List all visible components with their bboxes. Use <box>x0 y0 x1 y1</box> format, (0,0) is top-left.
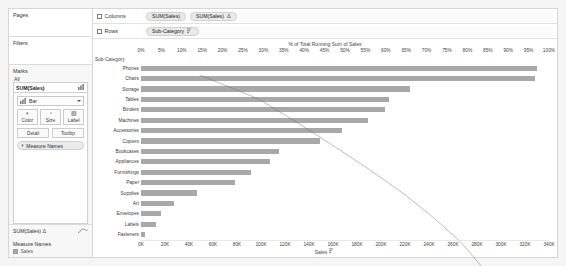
row-header-item[interactable]: Bookcases <box>93 146 139 156</box>
row-headers: Sub-Category PhonesChairsStorageTablesBi… <box>93 56 141 240</box>
row-header-item[interactable]: Phones <box>93 63 139 73</box>
mark-type-dropdown[interactable]: Bar <box>17 96 84 106</box>
delta-icon: Δ <box>227 13 231 19</box>
tooltip-button[interactable]: Tooltip <box>52 128 84 138</box>
columns-pill-1[interactable]: SUM(Sales) <box>146 12 186 21</box>
rows-drop-zone[interactable]: Sub-Category <box>143 26 553 37</box>
bottom-axis-title-group[interactable]: Sales <box>93 248 557 257</box>
marks-tab-all[interactable]: All <box>13 75 88 82</box>
legend-item-sales[interactable]: Sales <box>13 248 88 254</box>
row-header-item[interactable]: Accessories <box>93 125 139 135</box>
bar[interactable] <box>141 190 197 195</box>
row-header-item[interactable]: Binders <box>93 105 139 115</box>
plot-wrap: Sub-Category PhonesChairsStorageTablesBi… <box>93 56 557 240</box>
marks-tab-sum-sales[interactable]: SUM(Sales) <box>13 82 88 92</box>
columns-icon <box>97 14 102 19</box>
row-header-item[interactable]: Art <box>93 198 139 208</box>
detail-button[interactable]: Detail <box>17 128 49 138</box>
color-button[interactable]: ◐ Color <box>17 109 38 125</box>
line-mark-icon <box>78 228 88 235</box>
bar[interactable] <box>141 159 270 164</box>
pages-shelf[interactable]: Pages <box>9 9 92 37</box>
measure-names-legend: Measure Names Sales <box>9 240 92 258</box>
bar[interactable] <box>141 232 145 237</box>
marks-buttons-row-2: Detail Tooltip <box>17 128 84 138</box>
top-axis[interactable]: 0%5%10%15%20%25%30%35%40%45%50%55%60%65%… <box>141 48 549 56</box>
bottom-axis[interactable]: 0K20K40K60K80K100K120K140K160K180K200K22… <box>141 240 549 248</box>
color-palette-icon: ◐ <box>26 111 29 117</box>
bar[interactable] <box>141 201 174 206</box>
bar[interactable] <box>141 149 279 154</box>
bottom-axis-tick: 340K <box>543 242 554 247</box>
bar[interactable] <box>141 118 368 123</box>
bottom-axis-tick: 140K <box>303 242 314 247</box>
worksheet-frame: Pages Filters Marks All SUM(Sales) <box>8 8 558 258</box>
top-axis-tick: 35% <box>279 48 289 53</box>
bar-row <box>141 125 549 135</box>
row-header-item[interactable]: Supplies <box>93 188 139 198</box>
label-button[interactable]: ▧ Label <box>63 109 84 125</box>
bottom-axis-tick: 260K <box>447 242 458 247</box>
top-axis-tick: 90% <box>503 48 513 53</box>
bar-row <box>141 230 549 240</box>
detail-pill-icon: ◐ <box>21 143 24 149</box>
bar[interactable] <box>141 211 161 216</box>
rows-pill-sub-category[interactable]: Sub-Category <box>146 27 199 36</box>
bottom-axis-tick: 20K <box>161 242 170 247</box>
row-header-item[interactable]: Tables <box>93 94 139 104</box>
marks-pill-measure-names[interactable]: ◐ Measure Names <box>17 141 84 150</box>
marks-label: Marks <box>13 68 88 74</box>
bar[interactable] <box>141 138 320 143</box>
visualization: % of Total Running Sum of Sales 0%5%10%1… <box>93 39 557 257</box>
row-header-item[interactable]: Fasteners <box>93 230 139 240</box>
columns-drop-zone[interactable]: SUM(Sales) SUM(Sales) Δ <box>143 11 553 22</box>
top-axis-tick: 50% <box>340 48 350 53</box>
bottom-axis-tick: 160K <box>327 242 338 247</box>
bar-row <box>141 84 549 94</box>
bottom-axis-tick: 200K <box>375 242 386 247</box>
second-marks-card-header[interactable]: SUM(Sales) Δ <box>13 228 88 235</box>
bar-row <box>141 115 549 125</box>
top-axis-tick: 60% <box>381 48 391 53</box>
columns-pill-2[interactable]: SUM(Sales) Δ <box>190 12 237 21</box>
bar[interactable] <box>141 170 251 175</box>
left-sidebar: Pages Filters Marks All SUM(Sales) <box>9 9 93 257</box>
row-header-item[interactable]: Paper <box>93 177 139 187</box>
filters-shelf[interactable]: Filters <box>9 37 92 65</box>
bar-row <box>141 136 549 146</box>
top-axis-tick: 80% <box>463 48 473 53</box>
bar[interactable] <box>141 180 235 185</box>
bar[interactable] <box>141 76 535 81</box>
marks-tab-sum-sales-label: SUM(Sales) <box>16 85 45 91</box>
marks-card: Marks All SUM(Sales) <box>9 65 92 224</box>
top-axis-tick: 40% <box>299 48 309 53</box>
bar-row <box>141 73 549 83</box>
legend-swatch <box>13 249 18 254</box>
bar[interactable] <box>141 222 156 227</box>
row-header-item[interactable]: Machines <box>93 115 139 125</box>
row-header-item[interactable]: Furnishings <box>93 167 139 177</box>
bar[interactable] <box>141 66 537 71</box>
bar[interactable] <box>141 107 385 112</box>
sort-descending-icon <box>187 28 193 35</box>
plot-area[interactable] <box>141 56 549 240</box>
size-button[interactable]: ◔ Size <box>40 109 61 125</box>
bar[interactable] <box>141 128 342 133</box>
row-header-item[interactable]: Storage <box>93 84 139 94</box>
color-button-label: Color <box>22 118 33 123</box>
filters-label: Filters <box>13 40 88 46</box>
columns-shelf: Columns SUM(Sales) SUM(Sales) Δ <box>93 9 557 24</box>
row-header-item[interactable]: Chairs <box>93 73 139 83</box>
bar[interactable] <box>141 86 410 91</box>
bottom-axis-tick: 40K <box>185 242 194 247</box>
top-axis-tick: 55% <box>361 48 371 53</box>
row-header-item[interactable]: Appliances <box>93 157 139 167</box>
bar[interactable] <box>141 97 389 102</box>
row-header-item[interactable]: Labels <box>93 219 139 229</box>
bottom-axis-tick: 240K <box>423 242 434 247</box>
delta-icon: Δ <box>42 228 46 234</box>
bottom-axis-tick: 180K <box>351 242 362 247</box>
columns-pill-1-label: SUM(Sales) <box>152 13 180 19</box>
row-header-item[interactable]: Envelopes <box>93 209 139 219</box>
row-header-item[interactable]: Copiers <box>93 136 139 146</box>
